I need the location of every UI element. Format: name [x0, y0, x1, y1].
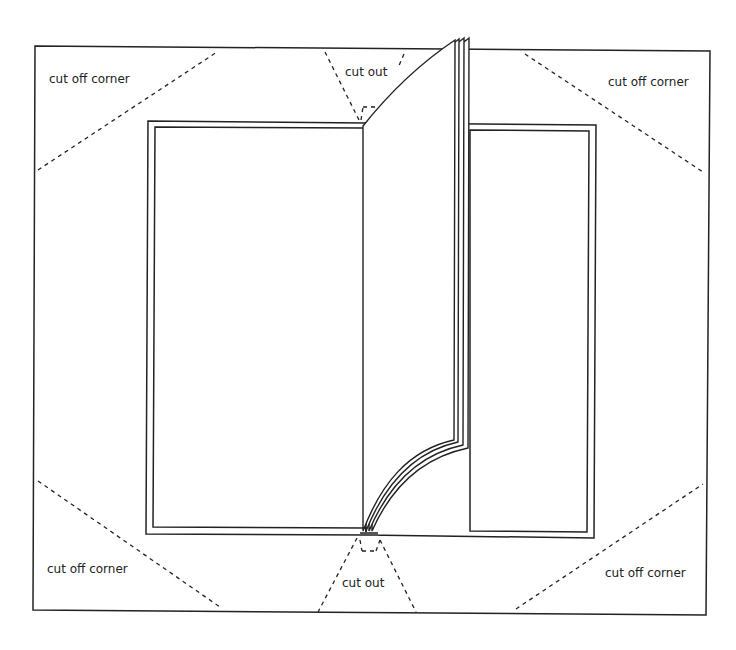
label-cut-off-corner-top-right: cut off corner	[608, 75, 689, 89]
page-stack	[363, 38, 469, 531]
book-template-diagram: cut off corner cut off corner cut off co…	[0, 0, 736, 650]
label-cut-off-corner-bottom-right: cut off corner	[605, 566, 686, 580]
cut-out-bottom	[318, 538, 416, 612]
label-cut-out-bottom: cut out	[342, 576, 385, 590]
cut-line-top-right	[525, 54, 703, 172]
cut-line-bottom-right	[516, 484, 703, 609]
label-cut-off-corner-top-left: cut off corner	[49, 72, 130, 86]
label-cut-off-corner-bottom-left: cut off corner	[47, 562, 128, 576]
label-cut-out-top: cut out	[345, 65, 388, 79]
cut-line-top-left	[38, 52, 217, 170]
spine-bottom	[360, 532, 378, 536]
left-cover-board	[146, 121, 366, 535]
cut-line-bottom-left	[38, 481, 220, 607]
